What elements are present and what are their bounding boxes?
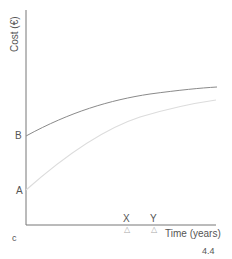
marker-b: B <box>15 131 22 141</box>
curve-b <box>26 87 217 136</box>
x-axis-label: Time (years) <box>165 229 221 239</box>
triangle-x-icon: △ <box>124 226 130 234</box>
figure-number: 4.4 <box>202 247 215 256</box>
chart-canvas <box>0 0 232 259</box>
triangle-y-icon: △ <box>151 226 157 234</box>
marker-y: Y <box>150 214 157 224</box>
y-axis-label: Cost (€) <box>9 16 20 52</box>
marker-a: A <box>16 186 23 196</box>
marker-x: X <box>123 214 130 224</box>
origin-label: c <box>12 234 17 243</box>
curve-a <box>26 100 216 190</box>
